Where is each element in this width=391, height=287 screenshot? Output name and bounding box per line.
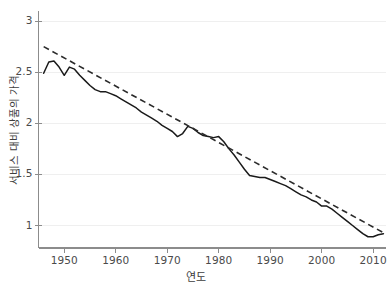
x-tick-label: 2010 <box>351 254 391 266</box>
x-tick-marks-group <box>64 248 373 253</box>
data-series-line <box>44 61 384 237</box>
y-tick-label: 1 <box>5 219 33 231</box>
trend-line-dashed <box>44 47 384 233</box>
x-tick-label: 2000 <box>300 254 344 266</box>
x-tick-label: 1980 <box>197 254 241 266</box>
x-tick-label: 1960 <box>94 254 138 266</box>
chart-container: 11.522.53 1950196019701980199020002010 연… <box>0 0 391 287</box>
x-axis-title: 연도 <box>0 268 391 284</box>
x-tick-label: 1970 <box>145 254 189 266</box>
chart-plot-area <box>0 0 391 287</box>
y-tick-label: 3 <box>5 14 33 26</box>
axis-lines-group <box>39 11 387 248</box>
x-tick-label: 1950 <box>42 254 86 266</box>
gridlines-group <box>39 21 387 225</box>
x-tick-label: 1990 <box>248 254 292 266</box>
y-axis-title: 서비스 대비 상품의 가격 <box>6 60 21 200</box>
